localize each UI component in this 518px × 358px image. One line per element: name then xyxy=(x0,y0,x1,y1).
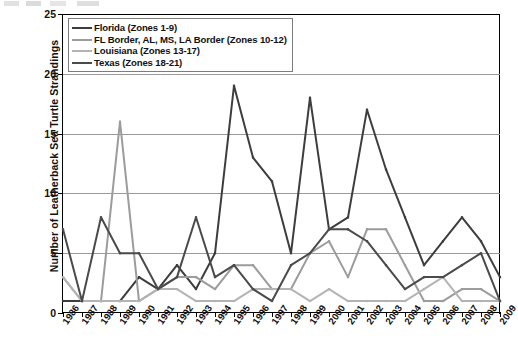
x-tick-label: 2007 xyxy=(459,303,480,327)
x-tick-label: 2004 xyxy=(402,303,423,327)
x-tick-label: 2005 xyxy=(421,303,442,327)
x-tick-label: 1995 xyxy=(231,303,252,327)
legend-item: FL Border, AL, MS, LA Border (Zones 10-1… xyxy=(72,34,288,46)
x-tick-label: 1989 xyxy=(117,303,138,327)
legend-swatch-icon xyxy=(72,45,92,56)
x-tick-label: 1993 xyxy=(193,303,214,327)
legend-item: Louisiana (Zones 13-17) xyxy=(72,45,288,57)
legend-item: Florida (Zones 1-9) xyxy=(72,22,288,34)
x-tick-label: 1990 xyxy=(136,303,157,327)
legend-swatch-icon xyxy=(72,34,92,45)
x-tick-label: 1998 xyxy=(288,303,309,327)
x-tick-label: 2000 xyxy=(326,303,347,327)
legend-item-label: Louisiana (Zones 13-17) xyxy=(94,45,200,56)
x-tick-label: 2009 xyxy=(497,303,518,327)
legend-item: Texas (Zones 18-21) xyxy=(72,57,288,69)
x-tick-label: 1987 xyxy=(79,303,100,327)
x-tick-label: 1988 xyxy=(98,303,119,327)
x-tick-label: 2003 xyxy=(383,303,404,327)
chart-legend: Florida (Zones 1-9)FL Border, AL, MS, LA… xyxy=(68,18,293,72)
legend-swatch-icon xyxy=(72,57,92,68)
x-tick-label: 1996 xyxy=(250,303,271,327)
x-tick-label: 2001 xyxy=(345,303,366,327)
x-tick-label: 1986 xyxy=(60,303,81,327)
x-tick-label: 1994 xyxy=(212,303,233,327)
x-tick-label: 2008 xyxy=(478,303,499,327)
x-tick-label: 1997 xyxy=(269,303,290,327)
x-tick-label: 1991 xyxy=(155,303,176,327)
x-tick-label: 2002 xyxy=(364,303,385,327)
legend-item-label: FL Border, AL, MS, LA Border (Zones 10-1… xyxy=(94,34,287,45)
x-tick-label: 1992 xyxy=(174,303,195,327)
legend-swatch-icon xyxy=(72,22,92,33)
legend-item-label: Texas (Zones 18-21) xyxy=(94,57,182,68)
x-tick-label: 1999 xyxy=(307,303,328,327)
x-tick-label: 2006 xyxy=(440,303,461,327)
legend-item-label: Florida (Zones 1-9) xyxy=(94,22,177,33)
